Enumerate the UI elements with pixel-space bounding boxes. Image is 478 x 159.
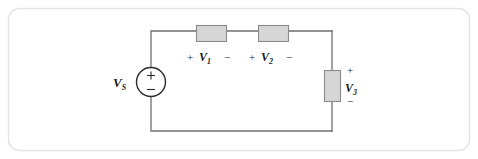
figure-frame [9, 9, 470, 151]
resistor-v2-body[interactable] [259, 26, 289, 42]
resistor-v1-body[interactable] [197, 26, 227, 42]
resistor-v3-plus-sign: + [347, 64, 353, 76]
resistor-v3-body[interactable] [325, 71, 341, 102]
figure-root: VS + V1 − + V2 − + V3 − [0, 0, 478, 159]
circuit-diagram: VS + V1 − + V2 − + V3 − [0, 0, 478, 159]
resistor-v2-minus-sign: − [286, 51, 292, 63]
resistor-v1-minus-sign: − [224, 51, 230, 63]
resistor-v3-minus-sign: − [347, 95, 353, 107]
resistor-v1-plus-sign: + [187, 51, 193, 63]
resistor-v2-plus-sign: + [249, 51, 255, 63]
